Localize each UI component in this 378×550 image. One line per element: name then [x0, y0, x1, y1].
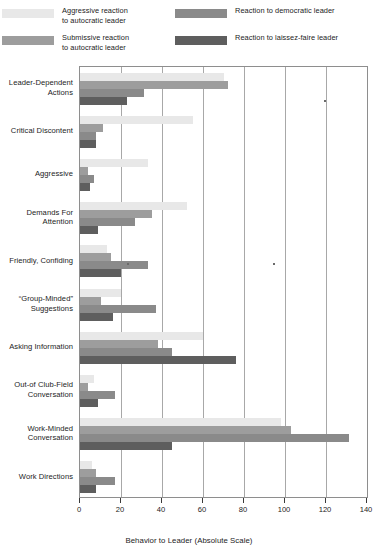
bar-group	[80, 116, 367, 148]
bar	[80, 399, 98, 407]
chart-page: Aggressive reaction to autocratic leader…	[0, 0, 378, 550]
bar	[80, 226, 98, 234]
bar	[80, 218, 135, 226]
chart-legend: Aggressive reaction to autocratic leader…	[0, 0, 378, 58]
bar	[80, 245, 107, 253]
x-tick-label: 80	[239, 505, 247, 514]
bar	[80, 313, 113, 321]
x-tick	[284, 498, 285, 503]
bar-group	[80, 375, 367, 407]
legend-swatch-laissez-faire	[175, 36, 227, 45]
x-tick	[325, 498, 326, 503]
x-tick	[120, 498, 121, 503]
bar	[80, 289, 121, 297]
category-label: Work-Minded Conversation	[0, 424, 73, 443]
legend-label-submissive-autocratic: Submissive reaction to autocratic leader	[62, 33, 129, 52]
legend-swatch-democratic	[175, 9, 227, 18]
bar	[80, 210, 152, 218]
x-tick-label: 0	[77, 505, 81, 514]
category-axis: Leader-Dependent ActionsCritical Discont…	[0, 66, 76, 498]
bar	[80, 140, 96, 148]
x-tick-label: 120	[319, 505, 332, 514]
bar	[80, 477, 115, 485]
legend-label-laissez-faire: Reaction to laissez-faire leader	[235, 33, 338, 43]
category-label: Demands For Attention	[0, 208, 73, 227]
category-label: Out-of Club-Field Conversation	[0, 380, 73, 399]
legend-item-submissive-autocratic: Submissive reaction to autocratic leader	[2, 33, 129, 52]
x-tick	[366, 498, 367, 503]
category-label: Critical Discontent	[0, 126, 73, 136]
bar	[80, 391, 115, 399]
bar	[80, 253, 111, 261]
category-label: Asking Information	[0, 342, 73, 352]
bar	[80, 340, 158, 348]
category-label: Aggressive	[0, 169, 73, 179]
x-tick-label: 100	[278, 505, 291, 514]
bar	[80, 426, 291, 434]
legend-label-democratic: Reaction to democratic leader	[235, 6, 335, 16]
bar	[80, 375, 94, 383]
bar	[80, 183, 90, 191]
x-tick-label: 40	[157, 505, 165, 514]
bar	[80, 418, 281, 426]
bar	[80, 73, 224, 81]
bar	[80, 469, 96, 477]
x-tick	[161, 498, 162, 503]
x-tick	[79, 498, 80, 503]
bar	[80, 81, 228, 89]
bar	[80, 132, 96, 140]
x-tick-label: 140	[360, 505, 373, 514]
bar	[80, 97, 127, 105]
category-label: Work Directions	[0, 472, 73, 482]
x-tick	[202, 498, 203, 503]
bar	[80, 159, 148, 167]
bar	[80, 269, 121, 277]
legend-item-democratic: Reaction to democratic leader	[175, 6, 335, 18]
scan-speck	[127, 263, 129, 265]
bar	[80, 434, 349, 442]
bar	[80, 442, 172, 450]
bar	[80, 167, 88, 175]
plot-wrapper: Leader-Dependent ActionsCritical Discont…	[0, 58, 378, 550]
bar-group	[80, 289, 367, 321]
bar	[80, 175, 94, 183]
bar	[80, 116, 193, 124]
bar	[80, 383, 88, 391]
bar	[80, 356, 236, 364]
bar	[80, 332, 203, 340]
scan-speck	[273, 263, 275, 265]
plot-area	[79, 66, 368, 498]
x-axis: 020406080100120140	[79, 498, 368, 524]
bar-group	[80, 418, 367, 450]
bar	[80, 261, 148, 269]
x-tick-label: 60	[198, 505, 206, 514]
scan-speck	[324, 100, 326, 102]
x-tick	[243, 498, 244, 503]
bar	[80, 305, 156, 313]
bar	[80, 124, 103, 132]
x-tick-label: 20	[116, 505, 124, 514]
bar-group	[80, 461, 367, 493]
category-label: Friendly, Confiding	[0, 256, 73, 266]
legend-label-aggressive-autocratic: Aggressive reaction to autocratic leader	[62, 6, 128, 25]
bar	[80, 89, 144, 97]
bar	[80, 461, 92, 469]
bar-group	[80, 332, 367, 364]
category-label: “Group-Minded” Suggestions	[0, 294, 73, 313]
legend-item-laissez-faire: Reaction to laissez-faire leader	[175, 33, 338, 45]
x-axis-title: Behavior to Leader (Absolute Scale)	[0, 536, 378, 545]
bar-group	[80, 245, 367, 277]
bar	[80, 297, 101, 305]
legend-swatch-aggressive-autocratic	[2, 9, 54, 18]
bar	[80, 348, 172, 356]
legend-item-aggressive-autocratic: Aggressive reaction to autocratic leader	[2, 6, 128, 25]
category-label: Leader-Dependent Actions	[0, 78, 73, 97]
bar-group	[80, 159, 367, 191]
bar	[80, 485, 96, 493]
legend-swatch-submissive-autocratic	[2, 36, 54, 45]
bar	[80, 202, 187, 210]
bar-group	[80, 202, 367, 234]
